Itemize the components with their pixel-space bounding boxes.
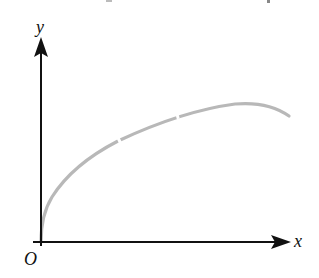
x-axis-label: x	[293, 231, 302, 251]
cropped-text-fragment	[267, 0, 270, 3]
cropped-text-fragment	[106, 0, 112, 2]
origin-label: O	[24, 249, 37, 269]
function-graph: y x O	[0, 0, 319, 278]
function-curve	[41, 104, 289, 243]
y-axis-label: y	[34, 17, 44, 37]
